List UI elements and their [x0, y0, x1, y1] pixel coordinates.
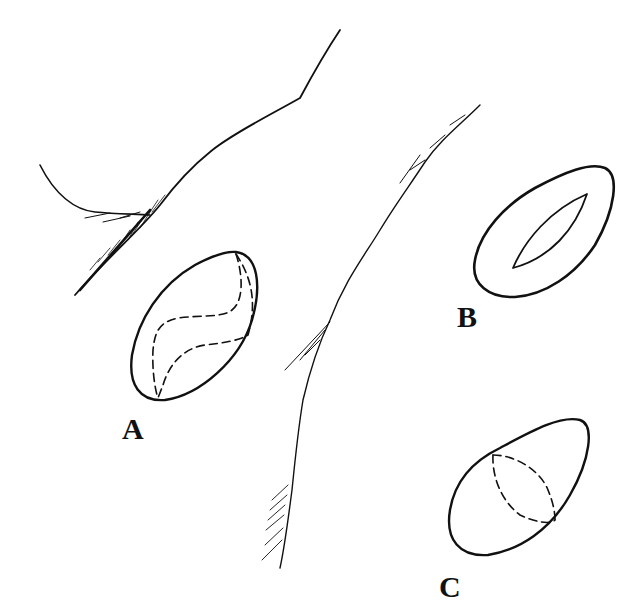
oval-b — [474, 166, 613, 297]
oval-a — [131, 252, 257, 400]
line-drawing — [0, 0, 639, 608]
oval-c — [449, 419, 589, 555]
middle-branch — [262, 105, 480, 568]
label-c: C — [439, 572, 461, 602]
left-branch — [40, 30, 340, 295]
label-a: A — [122, 414, 144, 444]
diagram-canvas: A B C — [0, 0, 639, 608]
label-b: B — [457, 302, 477, 332]
